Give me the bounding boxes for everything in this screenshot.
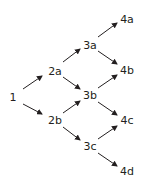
arrow-3b-to-4b <box>98 75 117 88</box>
node-3a: 3a <box>83 40 97 51</box>
arrow-2b-to-3c <box>63 127 80 140</box>
arrow-2a-to-3a <box>63 49 80 62</box>
node-4b: 4b <box>120 65 134 76</box>
node-4a: 4a <box>120 14 134 25</box>
node-4c: 4c <box>120 115 133 126</box>
arrow-3b-to-4c <box>98 102 117 115</box>
arrow-2b-to-3b <box>63 101 80 113</box>
arrow-3c-to-4d <box>98 153 117 166</box>
node-3b: 3b <box>83 90 97 101</box>
node-3c: 3c <box>83 141 96 152</box>
node-2a: 2a <box>48 66 62 77</box>
arrow-2a-to-3b <box>63 77 80 89</box>
branching-diagram: 12a2b3a3b3c4a4b4c4d <box>0 0 142 185</box>
arrow-1-to-2b <box>23 104 42 114</box>
arrow-layer <box>0 0 142 185</box>
arrow-1-to-2a <box>23 76 42 89</box>
arrow-3a-to-4b <box>98 51 117 64</box>
arrow-3a-to-4a <box>98 23 117 37</box>
node-1: 1 <box>10 92 17 103</box>
node-4d: 4d <box>120 166 134 177</box>
arrow-3c-to-4c <box>98 126 117 139</box>
node-2b: 2b <box>48 115 62 126</box>
